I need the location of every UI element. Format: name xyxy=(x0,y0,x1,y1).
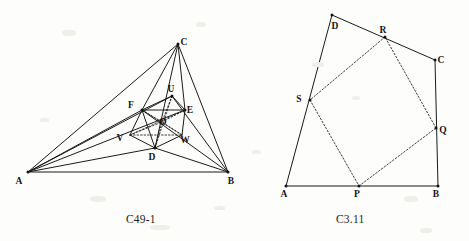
vertex-label-p: P xyxy=(354,189,360,199)
vertex-dot-s xyxy=(309,99,312,102)
vertex-label-q: Q xyxy=(439,125,446,135)
vertex-dot-r xyxy=(384,36,387,39)
vertex-label-b: B xyxy=(433,189,440,199)
vertex-label-a: A xyxy=(281,189,288,199)
edge-cd xyxy=(332,15,435,60)
vertex-dot-q xyxy=(435,127,438,130)
caption-right: C3.11 xyxy=(336,213,364,225)
dotted-edge-qr xyxy=(385,37,436,128)
vertices-group xyxy=(285,14,440,188)
dotted-edge-pq xyxy=(359,128,436,186)
vertex-dot-p xyxy=(358,185,361,188)
dotted-edge-rs xyxy=(310,37,385,100)
caption-left: C49-1 xyxy=(126,213,156,225)
diagram-c3-11: ABCDPQRS xyxy=(0,0,469,241)
edge-bc xyxy=(435,60,438,186)
vertex-label-c: C xyxy=(438,55,445,65)
vertex-label-d: D xyxy=(332,21,339,31)
vertex-label-s: S xyxy=(296,94,301,104)
vertex-dot-b xyxy=(437,185,440,188)
vertex-dot-a xyxy=(285,185,288,188)
dotted-edges-group xyxy=(310,37,436,186)
figure-board: ABCDEFUVWO ABCDPQRS C49-1 C3.11 xyxy=(0,0,469,241)
vertex-label-r: R xyxy=(380,25,387,35)
vertex-dot-c xyxy=(434,59,437,62)
dotted-edge-sp xyxy=(310,100,359,186)
vertex-labels-group: ABCDPQRS xyxy=(281,21,447,199)
vertex-dot-d xyxy=(331,14,334,17)
